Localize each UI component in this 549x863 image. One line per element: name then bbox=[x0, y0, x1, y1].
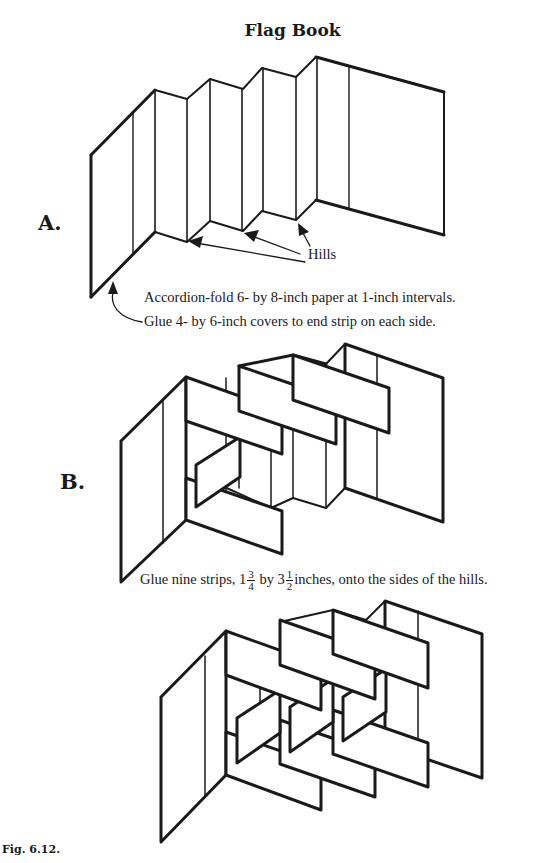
figure-label: Fig. 6.12. bbox=[2, 843, 60, 856]
diagram-c-completed-flag-book bbox=[0, 0, 549, 863]
